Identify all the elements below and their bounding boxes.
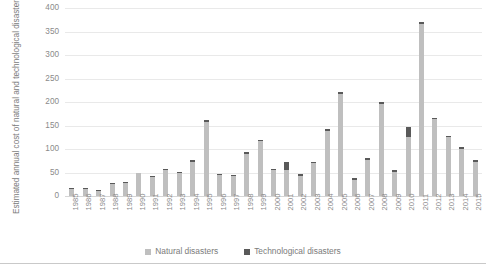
natural-disasters-swatch xyxy=(145,249,151,255)
bar-slot xyxy=(294,8,307,196)
x-axis-label-slot: 1996 xyxy=(213,200,226,242)
x-axis-label-slot: 2005 xyxy=(334,200,347,242)
x-axis-label-slot: 1999 xyxy=(253,200,266,242)
x-axis-label-slot: 1987 xyxy=(92,200,105,242)
x-axis-label-slot: 2015 xyxy=(469,200,482,242)
x-axis-label-slot: 2000 xyxy=(267,200,280,242)
x-axis-label-slot: 2007 xyxy=(361,200,374,242)
bar-slot xyxy=(119,8,132,196)
bar-slot xyxy=(253,8,266,196)
x-axis-label-slot: 1986 xyxy=(78,200,91,242)
bar-series-container xyxy=(65,8,482,196)
y-axis-tick-labels: 050100150200250300350400 xyxy=(36,8,62,204)
x-axis-tick-labels: 1985198619871988198919901991199219931994… xyxy=(65,200,482,242)
bar-slot xyxy=(132,8,145,196)
bar-slot xyxy=(105,8,118,196)
bar-stack xyxy=(190,160,195,196)
y-axis-tick-label: 350 xyxy=(45,28,59,36)
bar-segment-natural xyxy=(204,122,209,196)
bar-stack xyxy=(258,140,263,196)
legend-item[interactable]: Technological disasters xyxy=(244,247,341,256)
x-axis-label-slot: 2008 xyxy=(374,200,387,242)
chart-legend: Natural disastersTechnological disasters xyxy=(0,247,486,256)
bar-slot xyxy=(280,8,293,196)
bar-slot xyxy=(428,8,441,196)
bar-stack xyxy=(406,127,411,196)
x-axis-tick-label: 2015 xyxy=(475,194,483,211)
x-axis-label-slot: 2004 xyxy=(321,200,334,242)
bar-slot xyxy=(78,8,91,196)
bar-slot xyxy=(267,8,280,196)
disaster-cost-bar-chart: Estimated annual cost of natural and tec… xyxy=(0,0,486,271)
bar-segment-natural xyxy=(446,137,451,196)
bar-stack xyxy=(419,22,424,196)
bar-slot xyxy=(173,8,186,196)
bar-segment-technological xyxy=(284,162,289,170)
x-axis-label-slot: 2006 xyxy=(348,200,361,242)
technological-disasters-swatch xyxy=(244,249,250,255)
bar-slot xyxy=(374,8,387,196)
bar-slot xyxy=(334,8,347,196)
x-axis-label-slot: 2003 xyxy=(307,200,320,242)
y-axis-tick-label: 250 xyxy=(45,75,59,83)
bar-slot xyxy=(65,8,78,196)
x-axis-label-slot: 1990 xyxy=(132,200,145,242)
bar-stack xyxy=(459,147,464,196)
y-axis-tick-label: 50 xyxy=(50,169,59,177)
bar-segment-natural xyxy=(473,162,478,196)
bar-stack xyxy=(271,169,276,196)
bar-segment-natural xyxy=(177,173,182,197)
x-axis-label-slot: 1994 xyxy=(186,200,199,242)
bar-slot xyxy=(442,8,455,196)
bar-stack xyxy=(432,118,437,196)
y-axis-tick-label: 200 xyxy=(45,98,59,106)
bar-stack xyxy=(365,158,370,196)
bar-stack xyxy=(136,173,141,196)
bar-stack xyxy=(325,129,330,196)
bar-slot xyxy=(361,8,374,196)
bar-stack xyxy=(311,162,316,196)
plot-area: 050100150200250300350400 xyxy=(36,8,482,204)
bar-segment-natural xyxy=(311,163,316,196)
x-axis-label-slot: 2014 xyxy=(455,200,468,242)
x-axis-label-slot: 1998 xyxy=(240,200,253,242)
bar-segment-natural xyxy=(459,149,464,196)
x-axis-label-slot: 1992 xyxy=(159,200,172,242)
legend-item-label: Technological disasters xyxy=(254,247,341,256)
y-axis-tick-label: 0 xyxy=(54,192,59,200)
x-axis-label-slot: 1989 xyxy=(119,200,132,242)
bar-segment-natural xyxy=(190,162,195,196)
bar-stack xyxy=(244,152,249,196)
bar-stack xyxy=(446,136,451,196)
x-axis-label-slot: 2009 xyxy=(388,200,401,242)
bar-segment-natural xyxy=(365,160,370,196)
bar-stack xyxy=(379,102,384,196)
bar-slot xyxy=(348,8,361,196)
bar-slot xyxy=(226,8,239,196)
bar-slot xyxy=(186,8,199,196)
bar-stack xyxy=(338,92,343,196)
y-axis-tick-label: 300 xyxy=(45,51,59,59)
bar-segment-natural xyxy=(258,141,263,196)
y-axis-tick-label: 150 xyxy=(45,122,59,130)
bar-slot xyxy=(240,8,253,196)
y-axis-tick-label: 400 xyxy=(45,4,59,12)
bar-slot xyxy=(213,8,226,196)
x-axis-label-slot: 1985 xyxy=(65,200,78,242)
bar-slot xyxy=(321,8,334,196)
x-axis-label-slot: 1993 xyxy=(173,200,186,242)
bar-stack xyxy=(392,170,397,196)
legend-item[interactable]: Natural disasters xyxy=(145,247,218,256)
x-axis-label-slot: 1995 xyxy=(200,200,213,242)
bottom-divider xyxy=(0,263,486,264)
x-axis-label-slot: 2012 xyxy=(428,200,441,242)
bar-segment-natural xyxy=(406,137,411,196)
bar-slot xyxy=(401,8,414,196)
bar-segment-natural xyxy=(392,172,397,196)
bar-segment-natural xyxy=(284,170,289,196)
bar-stack xyxy=(204,120,209,196)
y-axis-title: Estimated annual cost of natural and tec… xyxy=(0,0,34,215)
bar-slot xyxy=(455,8,468,196)
bar-slot xyxy=(146,8,159,196)
bar-slot xyxy=(307,8,320,196)
